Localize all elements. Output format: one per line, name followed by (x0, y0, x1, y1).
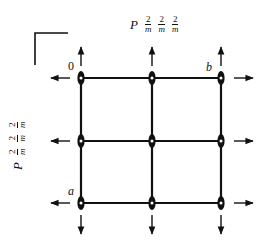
b-axis-label: b (206, 61, 212, 73)
fraction: 2m (8, 135, 27, 142)
lattice-letter: P (130, 17, 138, 32)
fraction: 2m (158, 15, 165, 34)
fraction: 2m (145, 15, 152, 34)
fraction: 2m (8, 122, 27, 129)
a-axis-label: a (68, 185, 74, 197)
fraction: 2m (8, 149, 27, 156)
left-symmetry-symbol: P 2m 2m 2m (8, 122, 27, 170)
top-symmetry-symbol: P 2m 2m 2m (130, 15, 178, 34)
origin-label: 0 (68, 60, 74, 72)
corner-mark (35, 33, 68, 65)
fraction: 2m (172, 15, 179, 34)
lattice-letter: P (10, 162, 25, 170)
lattice-diagram (0, 0, 273, 246)
